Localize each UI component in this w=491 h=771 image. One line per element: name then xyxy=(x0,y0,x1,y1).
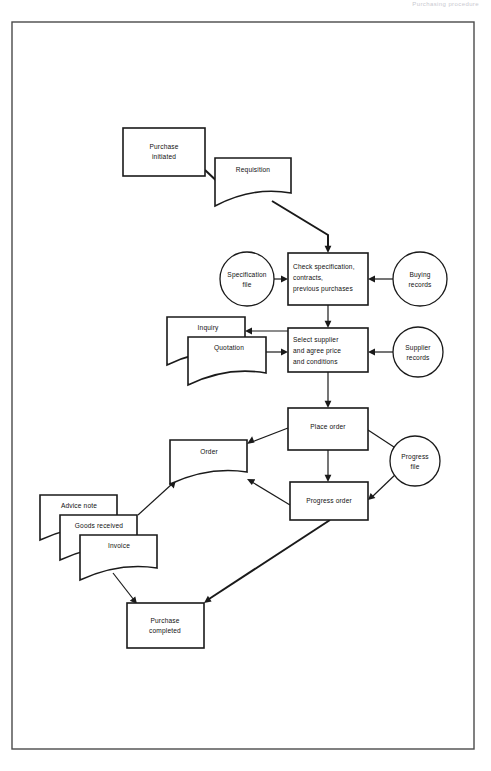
node-check-specification-label-line-1: Check specification, xyxy=(293,263,355,271)
edge-specification-file-to-check xyxy=(274,276,288,283)
edge-requisition-to-check-specification xyxy=(272,201,331,253)
node-buying-records-label-line-1: Buying xyxy=(409,271,430,279)
node-purchase-initiated-label-line-2: initiated xyxy=(152,153,176,160)
node-inquiry-label: Inquiry xyxy=(198,324,219,332)
node-supplier-records-label-line-1: Supplier xyxy=(405,344,431,352)
node-select-supplier-label-line-3: and conditions xyxy=(293,358,338,365)
node-advice-note-label: Advice note xyxy=(61,502,97,509)
node-requisition-label: Requisition xyxy=(236,166,270,174)
node-progress-file-label-line-2: file xyxy=(410,463,419,470)
edge-supplier-records-to-select xyxy=(368,349,393,356)
edge-check-to-select-supplier xyxy=(325,305,332,328)
node-purchase-completed-label-line-1: Purchase xyxy=(150,617,179,624)
node-select-supplier-label-line-1: Select supplier xyxy=(293,336,339,344)
node-place-order[interactable]: Place order xyxy=(288,408,368,450)
edge-quotation-to-select-supplier xyxy=(266,349,288,356)
node-purchase-initiated[interactable]: Purchase initiated xyxy=(123,128,205,176)
node-purchase-completed-label-line-2: completed xyxy=(149,627,181,635)
edge-buying-records-to-check xyxy=(368,276,393,283)
edge-place-order-to-order xyxy=(247,428,288,444)
page-border xyxy=(12,22,474,749)
node-requisition[interactable]: Requisition xyxy=(215,158,291,206)
node-progress-file-label-line-1: Progress xyxy=(401,453,429,461)
node-buying-records[interactable]: Buying records xyxy=(393,252,447,306)
node-buying-records-label-line-2: records xyxy=(408,281,432,288)
edge-progress-file-to-progress-order xyxy=(368,473,397,500)
edge-progress-order-to-purchase-completed xyxy=(204,520,330,603)
edge-select-supplier-to-place-order xyxy=(325,372,332,408)
node-purchase-completed[interactable]: Purchase completed xyxy=(127,603,204,648)
node-check-specification[interactable]: Check specification, contracts, previous… xyxy=(288,253,368,305)
node-check-specification-label-line-2: contracts, xyxy=(293,274,323,281)
node-invoice[interactable]: Invoice xyxy=(80,535,157,580)
node-progress-file[interactable]: Progress file xyxy=(390,436,440,486)
edge-select-supplier-to-inquiry xyxy=(245,328,288,335)
node-supplier-records-label-line-2: records xyxy=(406,354,430,361)
edge-place-order-to-progress-order xyxy=(325,450,332,482)
node-order-label: Order xyxy=(200,448,218,455)
flowchart-canvas: Purchase initiated Requisition Specifica… xyxy=(0,0,491,771)
node-progress-order-label: Progress order xyxy=(306,497,352,505)
node-select-supplier[interactable]: Select supplier and agree price and cond… xyxy=(288,328,368,372)
node-specification-file-label-line-1: Specification xyxy=(227,271,267,279)
node-invoice-label: Invoice xyxy=(108,542,130,549)
node-goods-received-label: Goods received xyxy=(75,522,123,529)
node-progress-order[interactable]: Progress order xyxy=(290,482,368,520)
node-check-specification-label-line-3: previous purchases xyxy=(293,285,353,293)
node-specification-file-label-line-2: file xyxy=(242,281,251,288)
node-specification-file[interactable]: Specification file xyxy=(220,252,274,306)
edge-progress-order-to-order xyxy=(247,479,290,505)
edge-order-to-invoice-stack xyxy=(138,480,176,515)
node-order[interactable]: Order xyxy=(170,440,247,484)
node-purchase-initiated-label-line-1: Purchase xyxy=(149,143,178,150)
node-quotation-label: Quotation xyxy=(214,344,244,352)
node-quotation[interactable]: Quotation xyxy=(188,337,266,385)
node-select-supplier-label-line-2: and agree price xyxy=(293,347,341,355)
flowchart-diagram: Purchasing procedure xyxy=(0,0,491,771)
node-place-order-label: Place order xyxy=(310,423,346,430)
edge-invoice-to-purchase-completed xyxy=(113,573,137,604)
node-supplier-records[interactable]: Supplier records xyxy=(393,327,443,377)
